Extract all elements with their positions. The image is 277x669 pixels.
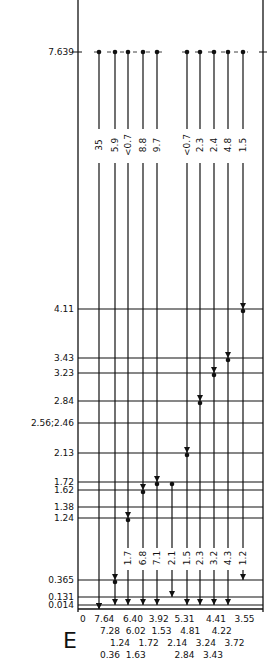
arrow-head bbox=[197, 395, 203, 401]
arrow-head bbox=[112, 599, 118, 605]
arrow-head bbox=[225, 599, 231, 605]
level-dot bbox=[241, 50, 246, 55]
transition-intensity: 1.7 bbox=[123, 551, 133, 565]
diagram-frame bbox=[78, 0, 263, 612]
transition-intensity: 6.8 bbox=[138, 551, 148, 566]
transition-intensity: <0.7 bbox=[123, 134, 133, 156]
level-dot bbox=[185, 50, 190, 55]
energy-row: 0.36 1.63 2.84 3.43 bbox=[100, 650, 223, 660]
arrow-head bbox=[184, 447, 190, 453]
arrow-head bbox=[211, 367, 217, 373]
transition-intensity: 1.2 bbox=[238, 551, 248, 565]
level-diagram: 355.9<0.78.89.7<0.72.32.44.81.51.76.87.1… bbox=[0, 0, 277, 669]
transition-intensity: 1.5 bbox=[182, 551, 192, 565]
panel-letter: E bbox=[63, 628, 77, 653]
level-label: 0.365 bbox=[48, 575, 74, 585]
level-dot bbox=[126, 50, 131, 55]
level-labels: 7.6394.113.433.232.842.56;2.462.131.721.… bbox=[31, 47, 74, 610]
transition-intensity: 4.8 bbox=[223, 138, 233, 153]
transition-intensity: <0.7 bbox=[182, 134, 192, 156]
transition-intensity: 4.3 bbox=[223, 551, 233, 565]
transition-intensity: 2.3 bbox=[195, 551, 205, 565]
arrow-head bbox=[112, 574, 118, 580]
level-label: 2.13 bbox=[54, 448, 74, 458]
level-dot bbox=[155, 50, 160, 55]
arrow-head bbox=[240, 574, 246, 580]
level-label: 2.56;2.46 bbox=[31, 418, 74, 428]
energy-rows: 0 7.64 6.40 3.92 5.31 4.41 3.557.28 6.02… bbox=[80, 614, 255, 660]
arrow-head bbox=[125, 599, 131, 605]
arrow-head bbox=[184, 599, 190, 605]
transition-intensity: 5.9 bbox=[110, 138, 120, 153]
transitions: 355.9<0.78.89.7<0.72.32.44.81.51.76.87.1… bbox=[94, 50, 248, 609]
level-label: 1.38 bbox=[54, 502, 74, 512]
level-dot bbox=[97, 50, 102, 55]
transition-intensity: 1.5 bbox=[238, 138, 248, 152]
energy-levels bbox=[72, 52, 267, 605]
transition-intensity: 2.4 bbox=[209, 138, 219, 153]
arrow-head bbox=[96, 603, 102, 609]
level-label: 7.639 bbox=[48, 47, 74, 57]
level-label: 3.43 bbox=[54, 353, 74, 363]
arrow-head bbox=[225, 352, 231, 358]
level-dot bbox=[226, 50, 231, 55]
transition-intensity: 9.7 bbox=[152, 138, 162, 152]
arrow-head bbox=[125, 512, 131, 518]
level-label: 2.84 bbox=[54, 396, 74, 406]
energy-row: 0 7.64 6.40 3.92 5.31 4.41 3.55 bbox=[80, 614, 255, 624]
level-dot bbox=[212, 50, 217, 55]
level-dot bbox=[113, 50, 118, 55]
transition-intensity: 8.8 bbox=[138, 138, 148, 153]
arrow-head bbox=[169, 591, 175, 597]
transition-intensity: 35 bbox=[94, 139, 104, 150]
energy-row: 7.28 6.02 1.53 4.81 4.22 bbox=[100, 626, 232, 636]
arrow-head bbox=[140, 484, 146, 490]
arrow-head bbox=[211, 599, 217, 605]
level-label: 4.11 bbox=[54, 304, 74, 314]
arrow-head bbox=[197, 599, 203, 605]
arrow-head bbox=[154, 476, 160, 482]
arrow-head bbox=[240, 303, 246, 309]
transition-intensity: 2.3 bbox=[195, 138, 205, 152]
transition-intensity: 2.1 bbox=[167, 551, 177, 565]
transition-intensity: 7.1 bbox=[152, 551, 162, 565]
arrow-head bbox=[154, 599, 160, 605]
energy-row: 1.24 1.72 2.14 3.24 3.72 bbox=[110, 638, 245, 648]
level-dot bbox=[198, 50, 203, 55]
level-label: 1.62 bbox=[54, 485, 74, 495]
level-label: 0.014 bbox=[48, 600, 74, 610]
arrow-head bbox=[140, 599, 146, 605]
level-dot bbox=[141, 50, 146, 55]
transition-intensity: 3.2 bbox=[209, 551, 219, 565]
level-label: 1.24 bbox=[54, 513, 74, 523]
level-label: 3.23 bbox=[54, 368, 74, 378]
